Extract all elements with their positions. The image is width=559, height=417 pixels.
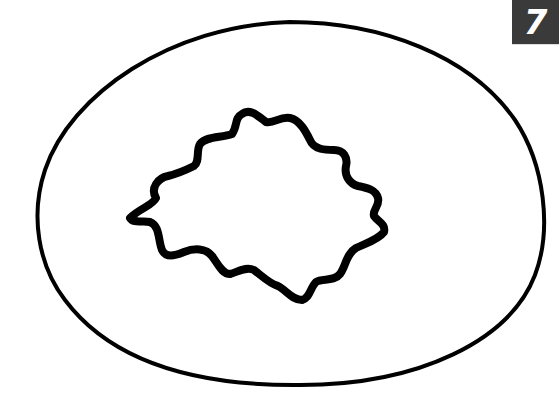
diagram-canvas bbox=[0, 0, 559, 417]
figure-number: 7 bbox=[524, 5, 548, 39]
outer-ellipse bbox=[38, 22, 545, 385]
inner-irregular-wavy-shape bbox=[130, 112, 384, 300]
figure-number-badge: 7 bbox=[512, 0, 559, 44]
